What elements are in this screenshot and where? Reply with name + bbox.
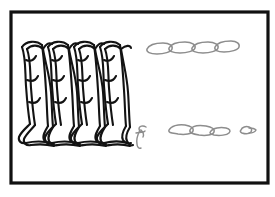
figure-root	[0, 0, 275, 197]
image-border	[11, 12, 268, 183]
diagram-canvas	[0, 0, 275, 197]
